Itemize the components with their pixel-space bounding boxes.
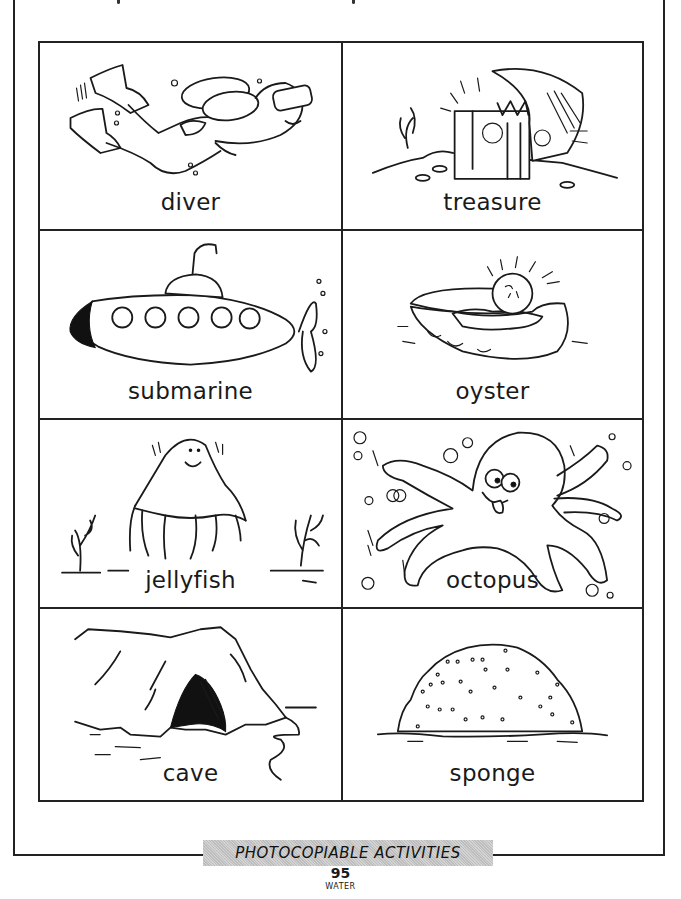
card-treasure: treasure	[343, 43, 642, 231]
card-label-sponge: sponge	[343, 760, 642, 786]
card-diver: diver	[40, 43, 343, 231]
card-label-treasure: treasure	[343, 189, 642, 215]
picture-card-grid: diver treasure	[38, 41, 644, 802]
card-jellyfish: jellyfish	[40, 420, 343, 609]
card-submarine: submarine	[40, 231, 343, 420]
page-number: 95	[0, 866, 681, 881]
photocopiable-banner: PHOTOCOPIABLE ACTIVITIES	[203, 840, 493, 866]
card-octopus: octopus	[343, 420, 642, 609]
card-label-jellyfish: jellyfish	[40, 567, 341, 593]
card-label-diver: diver	[40, 189, 341, 215]
card-label-cave: cave	[40, 760, 341, 786]
card-oyster: oyster	[343, 231, 642, 420]
banner-text: PHOTOCOPIABLE ACTIVITIES	[235, 844, 461, 862]
card-label-oyster: oyster	[343, 378, 642, 404]
card-label-octopus: octopus	[343, 567, 642, 593]
section-name: WATER	[0, 882, 681, 891]
card-sponge: sponge	[343, 609, 642, 800]
card-cave: cave	[40, 609, 343, 800]
card-label-submarine: submarine	[40, 378, 341, 404]
